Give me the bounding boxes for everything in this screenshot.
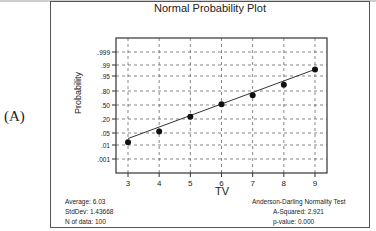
y-tick-label: .001 xyxy=(97,156,110,163)
n-stat: N of data: 100 xyxy=(65,217,113,227)
normality-test: Anderson-Darling Normality Test A-Square… xyxy=(252,197,352,227)
p-value-stat: p-value: 0.000 xyxy=(252,217,352,227)
data-point xyxy=(250,92,256,98)
data-point xyxy=(187,114,193,120)
x-axis-label: TV xyxy=(215,185,229,197)
y-tick-label: .80 xyxy=(101,88,110,95)
stddev-stat: StdDev: 1.43668 xyxy=(65,207,113,217)
x-tick-label: 9 xyxy=(313,179,318,188)
y-tick-label: .50 xyxy=(101,102,110,109)
data-point xyxy=(312,66,318,72)
data-point xyxy=(156,128,162,134)
x-tick-label: 4 xyxy=(157,179,162,188)
summary-stats: Average: 6.03 StdDev: 1.43668 N of data:… xyxy=(65,197,113,227)
data-point xyxy=(219,101,225,107)
data-points xyxy=(125,66,318,145)
y-tick-label: .05 xyxy=(101,130,110,137)
x-tick-label: 8 xyxy=(282,179,287,188)
x-tick-label: 5 xyxy=(188,179,193,188)
a-squared-stat: A-Squared: 2.921 xyxy=(252,207,352,217)
y-tick-label: .01 xyxy=(101,142,110,149)
ad-test-heading: Anderson-Darling Normality Test xyxy=(252,197,352,207)
y-tick-label: .99 xyxy=(101,62,110,69)
average-stat: Average: 6.03 xyxy=(65,197,113,207)
y-tick-label: .20 xyxy=(101,116,110,123)
y-tick-label: .95 xyxy=(101,73,110,80)
y-axis-ticks: .999.99.95.80.50.20.05.01.001 xyxy=(97,49,116,163)
y-axis-label: Probability xyxy=(73,72,83,114)
x-tick-label: 7 xyxy=(250,179,255,188)
data-point xyxy=(281,82,287,88)
data-point xyxy=(125,139,131,145)
x-tick-label: 3 xyxy=(126,179,131,188)
y-tick-label: .999 xyxy=(97,49,110,56)
